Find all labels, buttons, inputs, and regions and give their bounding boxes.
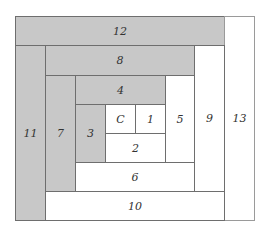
piece-label: C: [116, 113, 124, 126]
piece-label: 11: [24, 127, 38, 140]
piece-1: 1: [135, 104, 166, 134]
piece-label: 2: [132, 142, 139, 155]
piece-2: 2: [105, 133, 166, 163]
piece-center: C: [105, 104, 136, 134]
piece-13: 13: [224, 16, 255, 221]
piece-label: 6: [132, 171, 139, 184]
piece-label: 5: [177, 113, 184, 126]
log-cabin-block-diagram: 12 13 11 8 9 10 7 4 5 6 3 C 1 2: [0, 0, 266, 230]
piece-label: 9: [206, 112, 213, 125]
piece-label: 10: [128, 200, 142, 213]
piece-label: 12: [113, 25, 127, 38]
piece-label: 13: [233, 112, 247, 125]
piece-8: 8: [45, 45, 195, 76]
piece-5: 5: [165, 75, 195, 163]
piece-label: 7: [57, 127, 64, 140]
piece-6: 6: [75, 162, 195, 192]
piece-10: 10: [45, 191, 225, 221]
piece-label: 1: [147, 113, 154, 126]
piece-9: 9: [194, 45, 225, 192]
piece-12: 12: [15, 16, 225, 46]
piece-3: 3: [75, 104, 106, 163]
piece-11: 11: [15, 45, 46, 221]
piece-7: 7: [45, 75, 76, 192]
piece-label: 8: [117, 54, 124, 67]
piece-4: 4: [75, 75, 166, 105]
piece-label: 4: [117, 84, 124, 97]
piece-label: 3: [87, 127, 94, 140]
